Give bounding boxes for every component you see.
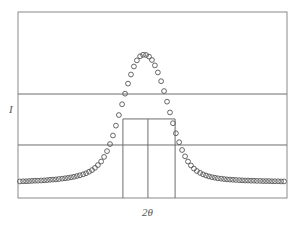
data-point-marker [150, 58, 155, 63]
data-point-marker [183, 154, 188, 159]
data-point-marker [81, 172, 86, 177]
peak-chart [0, 0, 299, 227]
data-point-marker [114, 123, 119, 128]
data-markers [17, 52, 286, 183]
data-point-marker [155, 70, 160, 75]
data-point-marker [132, 64, 137, 69]
data-point-marker [165, 99, 170, 104]
data-point-marker [129, 72, 134, 77]
data-point-marker [102, 154, 107, 159]
data-point-marker [120, 102, 125, 107]
data-point-marker [153, 63, 158, 68]
data-point-marker [134, 58, 139, 63]
data-point-marker [174, 131, 179, 136]
data-point-marker [99, 159, 104, 164]
data-point-marker [180, 148, 185, 153]
data-point-marker [159, 79, 164, 84]
data-point-marker [105, 149, 110, 154]
data-point-marker [116, 113, 121, 118]
data-point-marker [282, 179, 287, 184]
data-point-marker [177, 140, 182, 145]
data-point-marker [77, 173, 82, 178]
plot-frame [18, 12, 287, 198]
data-point-marker [108, 142, 113, 147]
x-axis-label: 2θ [142, 206, 153, 218]
plot-border [18, 12, 287, 198]
data-point-marker [204, 173, 209, 178]
data-point-marker [168, 110, 173, 115]
y-axis-label: I [9, 103, 13, 115]
data-point-marker [162, 89, 167, 94]
data-point-marker [126, 81, 131, 86]
data-point-marker [111, 133, 116, 138]
